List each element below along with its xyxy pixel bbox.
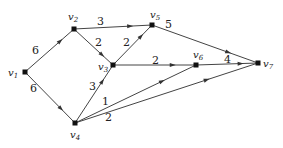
arrow-icon	[127, 24, 133, 28]
edge-v4-v6	[75, 65, 196, 123]
graph-diagram: 66322231254v1v2v3v4v5v6v7	[0, 0, 283, 148]
edge-v3-v5	[113, 25, 152, 65]
edge-weight: 4	[224, 53, 231, 66]
node-v3	[111, 63, 116, 68]
node-v6	[194, 63, 199, 68]
edge-v2-v5	[74, 25, 152, 29]
node-v7	[256, 61, 261, 66]
node-label: v6	[193, 49, 204, 62]
arrow-icon	[99, 78, 106, 85]
edge-weight: 3	[97, 15, 104, 28]
edge-v1-v4	[25, 72, 75, 123]
node-v4	[73, 121, 78, 126]
node-label: v3	[98, 61, 109, 74]
edge-v2-v3	[74, 29, 113, 65]
node-label: v1	[8, 67, 18, 80]
edge-weight: 2	[95, 36, 102, 49]
arrow-icon	[159, 78, 166, 84]
arrow-icon	[170, 63, 176, 67]
edge-weight: 2	[105, 111, 112, 124]
edge-weight: 3	[89, 80, 96, 93]
edge-weight: 6	[30, 82, 37, 95]
node-label: v7	[263, 58, 274, 71]
node-v1	[23, 70, 28, 75]
node-label: v2	[68, 11, 79, 24]
edge-weight: 2	[152, 54, 159, 67]
edge-weight: 2	[123, 36, 130, 49]
edge-v4-v7	[75, 63, 258, 123]
arrow-icon	[238, 61, 244, 65]
arrow-icon	[203, 77, 210, 83]
edge-weight: 6	[32, 44, 39, 57]
edge-weight: 1	[102, 95, 109, 108]
node-v5	[150, 23, 155, 28]
edge-weight: 5	[165, 18, 172, 31]
node-v2	[72, 27, 77, 32]
node-label: v5	[150, 9, 161, 22]
graph-canvas: 66322231254v1v2v3v4v5v6v7	[0, 0, 283, 148]
node-label: v4	[70, 129, 80, 142]
